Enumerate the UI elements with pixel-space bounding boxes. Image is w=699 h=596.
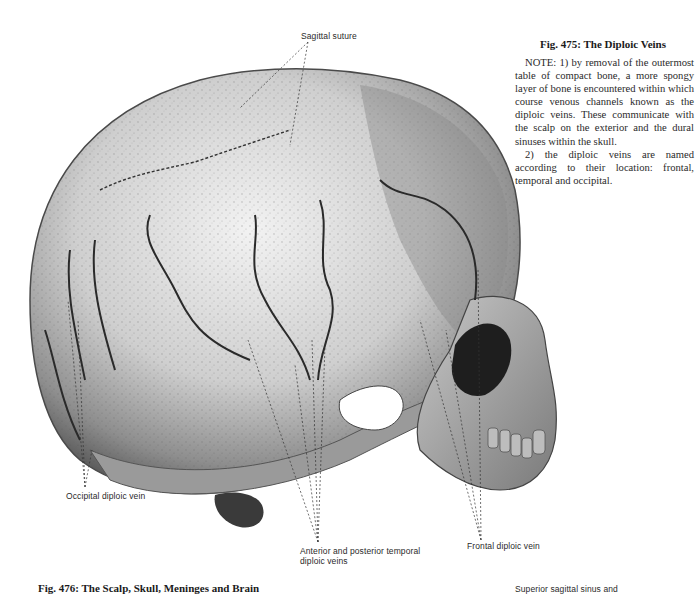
atlas-page: Sagittal suture Occipital diploic vein A…	[0, 0, 699, 596]
label-frontal-diploic-vein: Frontal diploic vein	[467, 541, 540, 551]
note-paragraph-2: 2) the diploic veins are named according…	[515, 148, 694, 187]
figure-476-title: Fig. 476: The Scalp, Skull, Meninges and…	[38, 582, 259, 594]
label-sagittal-suture: Sagittal suture	[301, 31, 357, 41]
figure-475-note: NOTE: 1) by removal of the outermost tab…	[515, 56, 694, 187]
label-temporal-diploic-veins-line2: diploic veins	[300, 556, 348, 566]
figure-475-title: Fig. 475: The Diploic Veins	[540, 38, 666, 50]
label-superior-sagittal-sinus: Superior sagittal sinus and	[515, 584, 618, 594]
label-occipital-diploic-vein: Occipital diploic vein	[66, 491, 145, 501]
note-paragraph-1: NOTE: 1) by removal of the outermost tab…	[515, 56, 694, 148]
label-temporal-diploic-veins-line1: Anterior and posterior temporal	[300, 546, 420, 556]
